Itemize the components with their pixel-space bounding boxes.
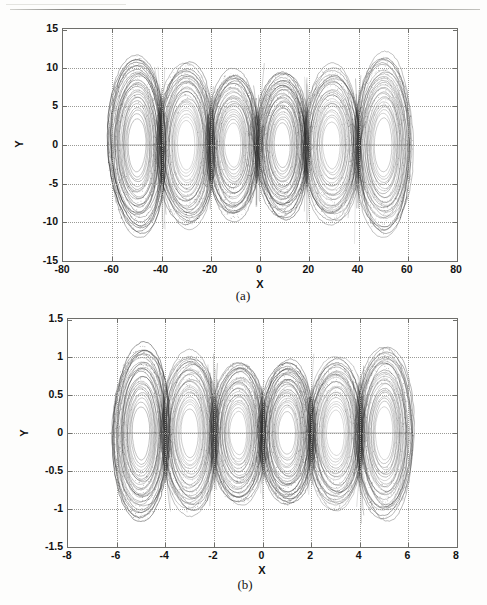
axis-tick-y <box>68 395 72 396</box>
axis-tick-x <box>112 257 113 261</box>
axis-tick-x <box>165 319 166 323</box>
figure-page: Y X (a) -80-60-40-20020406080151050-5-10… <box>0 0 487 605</box>
axis-tick-y <box>453 106 457 107</box>
y-tick-label: 1 <box>27 350 63 362</box>
axis-tick-x <box>309 257 310 261</box>
gridline-horizontal <box>63 68 457 69</box>
axis-tick-x <box>311 543 312 547</box>
y-tick-label: -10 <box>22 215 58 227</box>
axis-tick-x <box>359 29 360 33</box>
axis-tick-y <box>68 547 72 548</box>
axis-tick-x <box>311 319 312 323</box>
axis-tick-y <box>453 357 457 358</box>
y-tick-label: 1.5 <box>27 312 63 324</box>
axis-tick-y <box>68 471 72 472</box>
axis-tick-y <box>453 222 457 223</box>
x-tick-label: 6 <box>404 549 410 561</box>
y-tick-label: 0.5 <box>27 388 63 400</box>
axis-tick-y <box>453 395 457 396</box>
axis-tick-x <box>408 29 409 33</box>
y-tick-label: -0.5 <box>27 464 63 476</box>
y-tick-label: 0 <box>22 138 58 150</box>
gridline-horizontal <box>63 184 457 185</box>
plot-area-a <box>62 28 458 262</box>
x-tick-label: 40 <box>352 263 364 275</box>
axis-tick-y <box>453 68 457 69</box>
axis-tick-x <box>408 319 409 323</box>
gridline-horizontal <box>68 433 457 434</box>
gridline-horizontal <box>68 357 457 358</box>
axis-tick-y <box>453 184 457 185</box>
y-tick-label: -5 <box>22 177 58 189</box>
y-tick-label: -15 <box>22 254 58 266</box>
axis-tick-y <box>63 222 67 223</box>
y-tick-label: -1.5 <box>27 540 63 552</box>
axis-tick-y <box>68 320 72 321</box>
axis-tick-x <box>260 257 261 261</box>
axis-tick-x <box>214 319 215 323</box>
y-tick-label: 0 <box>27 426 63 438</box>
axis-tick-x <box>360 319 361 323</box>
gridline-horizontal <box>63 222 457 223</box>
x-tick-label: 4 <box>356 549 362 561</box>
axis-tick-y <box>68 509 72 510</box>
axis-tick-y <box>63 106 67 107</box>
x-tick-label: -8 <box>62 549 71 561</box>
axis-tick-y <box>453 30 457 31</box>
axis-tick-y <box>453 320 457 321</box>
x-tick-label: 0 <box>259 549 265 561</box>
y-tick-label: 5 <box>22 99 58 111</box>
panel-caption-b: (b) <box>237 577 252 593</box>
axis-tick-x <box>117 319 118 323</box>
axis-title-x-b: X <box>258 564 265 576</box>
axis-tick-y <box>68 433 72 434</box>
axis-tick-y <box>63 261 67 262</box>
axis-tick-y <box>63 145 67 146</box>
x-tick-label: 80 <box>450 263 462 275</box>
x-tick-label: 60 <box>401 263 413 275</box>
axis-tick-x <box>162 29 163 33</box>
axis-tick-x <box>309 29 310 33</box>
plot-area-b <box>67 318 458 548</box>
x-tick-label: 0 <box>256 263 262 275</box>
axis-tick-y <box>453 509 457 510</box>
axis-tick-x <box>408 543 409 547</box>
axis-tick-x <box>211 257 212 261</box>
x-tick-label: -6 <box>111 549 120 561</box>
x-tick-label: -20 <box>202 263 217 275</box>
x-tick-label: -40 <box>153 263 168 275</box>
axis-tick-x <box>211 29 212 33</box>
axis-tick-y <box>453 261 457 262</box>
axis-tick-x <box>162 257 163 261</box>
panel-b: Y X (b) -8-6-4-2024681.510.50-0.5-1-1.5 <box>0 305 487 605</box>
gridline-horizontal <box>68 395 457 396</box>
axis-tick-x <box>263 543 264 547</box>
axis-tick-y <box>63 68 67 69</box>
axis-tick-x <box>260 29 261 33</box>
gridline-horizontal <box>63 145 457 146</box>
axis-tick-x <box>165 543 166 547</box>
panel-a: Y X (a) -80-60-40-20020406080151050-5-10… <box>0 0 487 305</box>
x-tick-label: 20 <box>302 263 314 275</box>
axis-tick-y <box>63 184 67 185</box>
axis-tick-x <box>408 257 409 261</box>
y-tick-label: 15 <box>22 22 58 34</box>
axis-tick-x <box>117 543 118 547</box>
axis-tick-y <box>453 471 457 472</box>
x-tick-label: 2 <box>307 549 313 561</box>
y-tick-label: 10 <box>22 61 58 73</box>
y-tick-label: -1 <box>27 502 63 514</box>
panel-caption-a: (a) <box>236 288 250 304</box>
axis-tick-x <box>359 257 360 261</box>
x-tick-label: -60 <box>104 263 119 275</box>
x-tick-label: 8 <box>453 549 459 561</box>
axis-title-x-a: X <box>256 278 263 290</box>
axis-tick-y <box>453 547 457 548</box>
x-tick-label: -4 <box>160 549 169 561</box>
axis-tick-x <box>263 319 264 323</box>
axis-tick-y <box>63 30 67 31</box>
axis-tick-x <box>112 29 113 33</box>
gridline-horizontal <box>68 471 457 472</box>
gridline-horizontal <box>68 509 457 510</box>
axis-tick-y <box>68 357 72 358</box>
